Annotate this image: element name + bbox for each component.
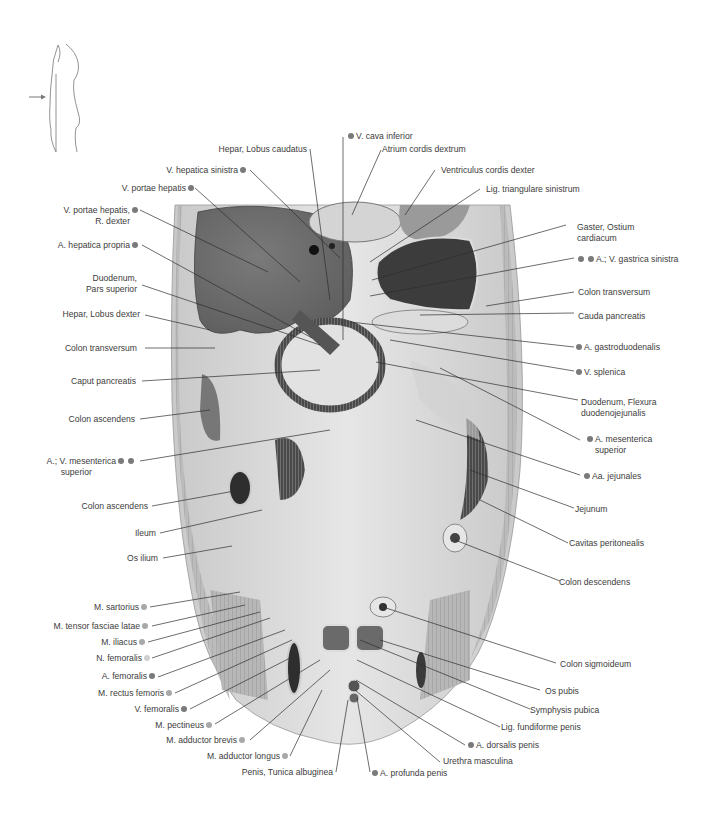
label-duodenum-pars-superior: Duodenum, Pars superior xyxy=(86,273,137,294)
label-m-adductor-brevis: M. adductor brevis xyxy=(166,735,247,746)
artery-dot-icon xyxy=(348,133,354,139)
label-a-profunda-penis: A. profunda penis xyxy=(370,768,447,779)
label-penis-tunica-albuginea: Penis, Tunica albuginea xyxy=(242,767,333,778)
label-colon-sigmoideum: Colon sigmoideum xyxy=(560,659,631,670)
muscle-dot-icon xyxy=(142,623,148,629)
label-cauda-pancreatis: Cauda pancreatis xyxy=(578,311,645,322)
label-colon-ascendens-1: Colon ascendens xyxy=(69,414,135,425)
muscle-dot-icon xyxy=(141,604,147,610)
muscle-dot-icon xyxy=(139,639,145,645)
label-urethra-masculina: Urethra masculina xyxy=(443,756,513,767)
label-v-femoralis: V. femoralis xyxy=(134,704,189,715)
label-cavitas-peritonealis: Cavitas peritonealis xyxy=(569,538,644,549)
label-n-femoralis: N. femoralis xyxy=(96,653,152,664)
artery-dot-icon xyxy=(372,770,378,776)
vein-dot-icon xyxy=(576,369,582,375)
label-hepar-lobus-caudatus: Hepar, Lobus caudatus xyxy=(219,144,307,155)
artery-dot-icon xyxy=(132,242,138,248)
muscle-dot-icon xyxy=(282,753,288,759)
section-arrow-icon xyxy=(29,95,46,100)
label-os-ilium: Os ilium xyxy=(127,553,158,564)
muscle-dot-icon xyxy=(239,737,245,743)
label-v-splenica: V. splenica xyxy=(574,367,625,378)
artery-dot-icon xyxy=(468,742,474,748)
vein-dot-icon xyxy=(181,706,187,712)
label-lig-triangulare-sinistrum: Lig. triangulare sinistrum xyxy=(486,184,580,195)
label-v-portae-hepatis: V. portae hepatis xyxy=(122,183,196,194)
label-colon-descendens: Colon descendens xyxy=(559,577,630,588)
artery-dot-icon xyxy=(587,436,593,442)
label-m-sartorius: M. sartorius xyxy=(94,602,149,613)
label-duodenum-flexura-duodenojejunalis: Duodenum, Flexura duodenojejunalis xyxy=(581,397,656,418)
label-m-rectus-femoris: M. rectus femoris xyxy=(98,688,174,699)
vein-dot-icon xyxy=(588,256,594,262)
label-colon-transversum-left: Colon transversum xyxy=(65,343,137,354)
label-a-v-gastrica-sinistra: A.; V. gastrica sinistra xyxy=(576,254,678,265)
label-a-mesenterica-superior: A. mesenterica superior xyxy=(585,434,652,455)
label-caput-pancreatis: Caput pancreatis xyxy=(71,376,136,387)
label-colon-transversum-right: Colon transversum xyxy=(578,287,650,298)
label-gaster-ostium-cardiacum: Gaster, Ostium cardiacum xyxy=(577,222,634,243)
nerve-dot-icon xyxy=(144,655,150,661)
vein-dot-icon xyxy=(132,207,138,213)
label-os-pubis: Os pubis xyxy=(545,686,579,697)
label-a-hepatica-propria: A. hepatica propria xyxy=(58,240,140,251)
artery-dot-icon xyxy=(118,458,124,464)
artery-dot-icon xyxy=(149,673,155,679)
vein-dot-icon xyxy=(240,167,246,173)
label-lig-fundiforme-penis: Lig. fundiforme penis xyxy=(501,722,581,733)
label-colon-ascendens-2: Colon ascendens xyxy=(82,501,148,512)
artery-dot-icon xyxy=(584,473,590,479)
label-v-hepatica-sinistra: V. hepatica sinistra xyxy=(166,165,248,176)
label-a-gastroduodenalis: A. gastroduodenalis xyxy=(574,342,660,353)
label-m-tensor-fasciae-latae: M. tensor fasciae latae xyxy=(54,621,150,632)
label-v-portae-hepatis-r-dexter: V. portae hepatis, R. dexter xyxy=(63,205,140,226)
vein-dot-icon xyxy=(188,185,194,191)
label-ventriculus-cordis-dexter: Ventriculus cordis dexter xyxy=(441,165,535,176)
muscle-dot-icon xyxy=(166,690,172,696)
label-m-pectineus: M. pectineus xyxy=(155,720,214,731)
label-m-iliacus: M. iliacus xyxy=(101,637,147,648)
label-hepar-lobus-dexter: Hepar, Lobus dexter xyxy=(63,309,140,320)
label-aa-jejunales: Aa. jejunales xyxy=(582,471,641,482)
label-symphysis-pubica: Symphysis pubica xyxy=(530,705,599,716)
body-section xyxy=(171,202,522,744)
orientation-figure xyxy=(50,44,80,152)
label-ileum: Ileum xyxy=(135,528,156,539)
vein-dot-icon xyxy=(128,458,134,464)
label-a-v-mesenterica-superior: A.; V. mesenterica superior xyxy=(47,456,136,477)
label-jejunum: Jejunum xyxy=(575,504,607,515)
label-atrium-cordis-dextrum: Atrium cordis dextrum xyxy=(382,144,466,155)
label-v-cava-inferior: V. cava inferior xyxy=(346,131,413,142)
artery-dot-icon xyxy=(578,256,584,262)
label-a-femoralis: A. femoralis xyxy=(102,671,157,682)
muscle-dot-icon xyxy=(206,722,212,728)
artery-dot-icon xyxy=(576,344,582,350)
label-m-adductor-longus: M. adductor longus xyxy=(207,751,290,762)
label-a-dorsalis-penis: A. dorsalis penis xyxy=(466,740,539,751)
